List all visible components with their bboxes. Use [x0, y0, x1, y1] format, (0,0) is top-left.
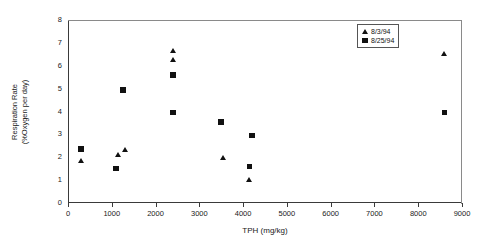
- x-axis-tick: [418, 203, 419, 207]
- square-marker-icon: [442, 110, 448, 116]
- square-marker-icon: [218, 119, 224, 125]
- triangle-marker-icon: [115, 152, 121, 157]
- square-marker-icon: [113, 166, 119, 172]
- legend-item: 8/25/94: [361, 36, 394, 45]
- x-axis-tick-label: 2000: [136, 209, 176, 218]
- square-marker-icon: [249, 133, 255, 139]
- plot-top-border: [68, 20, 462, 21]
- x-axis-tick: [112, 203, 113, 207]
- legend-item: 8/3/94: [361, 27, 394, 36]
- triangle-marker-icon: [361, 27, 369, 36]
- triangle-marker-icon: [170, 57, 176, 62]
- y-axis-tick-label: 4: [48, 107, 62, 116]
- x-axis-tick-label: 8000: [398, 209, 438, 218]
- square-marker-icon: [361, 36, 369, 45]
- triangle-marker-icon: [441, 51, 447, 56]
- y-axis-tick-label: 2: [48, 152, 62, 161]
- plot-right-border: [461, 20, 462, 204]
- x-axis-tick-label: 0: [48, 209, 88, 218]
- x-axis-tick-label: 3000: [179, 209, 219, 218]
- y-axis-tick-label: 0: [48, 198, 62, 207]
- y-axis-tick-label: 1: [48, 175, 62, 184]
- triangle-marker-icon: [170, 48, 176, 53]
- y-axis-title: Respiration Rate (%Oxygen per day): [10, 46, 36, 178]
- y-axis-tick-label: 3: [48, 129, 62, 138]
- square-marker-icon: [170, 72, 176, 78]
- x-axis-tick: [374, 203, 375, 207]
- square-marker-icon: [170, 110, 176, 116]
- chart-legend: 8/3/948/25/94: [357, 24, 399, 48]
- triangle-marker-icon: [246, 177, 252, 182]
- y-axis-title-line1: Respiration Rate: [10, 46, 20, 178]
- legend-item-label: 8/3/94: [371, 28, 390, 35]
- plot-area: [68, 20, 462, 203]
- x-axis-tick-label: 7000: [354, 209, 394, 218]
- square-marker-icon: [78, 146, 84, 152]
- y-axis-tick-label: 6: [48, 61, 62, 70]
- y-axis-tick-label: 7: [48, 38, 62, 47]
- x-axis-tick: [243, 203, 244, 207]
- x-axis-tick-label: 6000: [311, 209, 351, 218]
- triangle-marker-icon: [220, 155, 226, 160]
- x-axis-tick: [199, 203, 200, 207]
- triangle-marker-icon: [78, 158, 84, 163]
- x-axis-tick: [287, 203, 288, 207]
- square-marker-icon: [247, 164, 253, 170]
- x-axis-title: TPH (mg/kg): [68, 226, 462, 235]
- x-axis-tick: [331, 203, 332, 207]
- scatter-chart-figure: 0100020003000400050006000700080009000 01…: [0, 0, 488, 249]
- x-axis-tick: [68, 203, 69, 207]
- x-axis-tick-label: 5000: [267, 209, 307, 218]
- y-axis-title-line2: (%Oxygen per day): [20, 46, 30, 178]
- x-axis-tick: [462, 203, 463, 207]
- x-axis-tick-label: 9000: [442, 209, 482, 218]
- y-axis-tick-label: 8: [48, 15, 62, 24]
- triangle-marker-icon: [122, 147, 128, 152]
- square-marker-icon: [120, 87, 126, 93]
- legend-item-label: 8/25/94: [371, 37, 394, 44]
- x-axis-tick: [156, 203, 157, 207]
- y-axis-tick-label: 5: [48, 84, 62, 93]
- x-axis-tick-label: 1000: [92, 209, 132, 218]
- x-axis-tick-label: 4000: [223, 209, 263, 218]
